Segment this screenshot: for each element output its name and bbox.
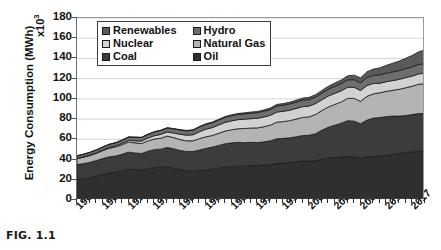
x-axis-minor-tick [289, 199, 290, 203]
x-axis-minor-tick [108, 199, 109, 203]
x-axis-minor-tick [282, 199, 283, 203]
legend-column-1: RenewablesNuclearCoal [102, 24, 177, 63]
x-axis-minor-tick [276, 199, 277, 203]
y-axis-tick-mark [70, 17, 77, 18]
x-axis-minor-tick [327, 199, 328, 203]
legend-label: Hydro [204, 25, 236, 36]
legend-label: Oil [204, 51, 219, 62]
x-axis-minor-tick [198, 199, 199, 203]
legend-swatch-icon [102, 53, 110, 61]
x-axis-minor-tick [360, 199, 361, 203]
x-axis-minor-tick [205, 199, 206, 203]
x-axis-minor-tick [134, 199, 135, 203]
x-axis-minor-tick [302, 199, 303, 203]
x-axis-minor-tick [379, 199, 380, 203]
x-axis-minor-tick [385, 199, 386, 203]
y-axis-tick-mark [70, 118, 77, 119]
x-axis-minor-tick [231, 199, 232, 203]
y-axis-tick-mark [70, 37, 77, 38]
legend-column-2: HydroNatural GasOil [193, 24, 266, 63]
legend-swatch-icon [193, 40, 201, 48]
x-axis-minor-tick [82, 199, 83, 203]
x-axis-minor-tick [128, 199, 129, 203]
x-axis-minor-tick [147, 199, 148, 203]
legend-label: Coal [113, 51, 137, 62]
x-axis-minor-tick [314, 199, 315, 203]
legend-label: Renewables [113, 25, 177, 36]
y-axis-tick-mark [70, 57, 77, 58]
y-axis-tick-mark [70, 78, 77, 79]
x-axis-minor-tick [398, 199, 399, 203]
x-axis-minor-tick [160, 199, 161, 203]
x-axis-minor-tick [140, 199, 141, 203]
legend-item-nuclear[interactable]: Nuclear [102, 37, 177, 50]
x-axis-minor-tick [263, 199, 264, 203]
x-axis-minor-tick [166, 199, 167, 203]
x-axis-minor-tick [340, 199, 341, 203]
legend-swatch-icon [193, 27, 201, 35]
x-axis-minor-tick [173, 199, 174, 203]
y-axis-tick-mark [70, 98, 77, 99]
chart-legend: RenewablesNuclearCoalHydroNatural GasOil [97, 21, 271, 66]
x-axis-minor-tick [295, 199, 296, 203]
legend-swatch-icon [102, 40, 110, 48]
legend-item-natural-gas[interactable]: Natural Gas [193, 37, 266, 50]
x-axis-minor-tick [308, 199, 309, 203]
x-axis-minor-tick [392, 199, 393, 203]
x-axis-minor-tick [76, 199, 77, 203]
x-axis-minor-tick [153, 199, 154, 203]
y-axis-tick-mark [70, 159, 77, 160]
x-axis-minor-tick [224, 199, 225, 203]
legend-item-oil[interactable]: Oil [193, 50, 266, 63]
x-axis-minor-tick [121, 199, 122, 203]
x-axis-minor-tick [95, 199, 96, 203]
y-axis-tick-mark [70, 179, 77, 180]
legend-item-coal[interactable]: Coal [102, 50, 177, 63]
legend-item-hydro[interactable]: Hydro [193, 24, 266, 37]
x-axis-minor-tick [366, 199, 367, 203]
x-axis-minor-tick [102, 199, 103, 203]
x-axis-minor-tick [405, 199, 406, 203]
x-axis-minor-tick [237, 199, 238, 203]
x-axis-minor-tick [347, 199, 348, 203]
legend-item-renewables[interactable]: Renewables [102, 24, 177, 37]
x-axis-minor-tick [211, 199, 212, 203]
x-axis-minor-tick [115, 199, 116, 203]
x-axis-minor-tick [269, 199, 270, 203]
x-axis-minor-tick [321, 199, 322, 203]
x-axis-minor-tick [244, 199, 245, 203]
x-axis-minor-tick [411, 199, 412, 203]
x-axis-minor-tick [372, 199, 373, 203]
x-axis-minor-tick [334, 199, 335, 203]
figure-caption: FIG. 1.1 [6, 229, 56, 242]
x-axis-minor-tick [218, 199, 219, 203]
x-axis-minor-tick [192, 199, 193, 203]
figure-container: Energy Consumption (MWh) x103 0204060801… [0, 0, 441, 250]
x-axis-minor-tick [256, 199, 257, 203]
x-axis-minor-tick [353, 199, 354, 203]
x-axis-minor-tick [89, 199, 90, 203]
x-axis-minor-tick [186, 199, 187, 203]
x-axis-minor-tick [250, 199, 251, 203]
legend-swatch-icon [193, 53, 201, 61]
legend-label: Natural Gas [204, 38, 266, 49]
x-axis-minor-tick [179, 199, 180, 203]
legend-swatch-icon [102, 27, 110, 35]
x-axis-minor-tick [418, 199, 419, 203]
y-axis-tick-mark [70, 138, 77, 139]
x-axis-minor-tick [424, 199, 425, 203]
legend-label: Nuclear [113, 38, 153, 49]
